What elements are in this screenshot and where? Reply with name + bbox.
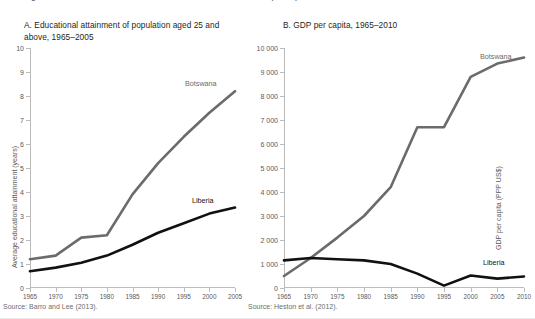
x-tick-label: 2010 (517, 293, 531, 300)
y-tick-label: 8 (20, 93, 24, 100)
y-tick (26, 96, 30, 97)
x-tick-label: 1975 (74, 293, 88, 300)
panel-b-source: Source: Heston et al. (2012). (248, 303, 338, 310)
panel-a-source: Source: Barro and Lee (2013). (3, 303, 98, 310)
x-tick-label: 1965 (23, 293, 37, 300)
x-tick (364, 288, 365, 292)
y-tick (26, 168, 30, 169)
y-tick-label: 9 000 (260, 69, 278, 76)
x-tick-label: 1980 (357, 293, 371, 300)
x-tick (444, 288, 445, 292)
panel-a-title: A. Educational attainment of population … (24, 20, 239, 43)
x-tick (184, 288, 185, 292)
x-tick (417, 288, 418, 292)
y-tick (280, 48, 284, 49)
panel-a-label-liberia: Liberia (192, 196, 214, 205)
panel-b-title: B. GDP per capita, 1965–2010 (283, 20, 523, 32)
y-tick (280, 96, 284, 97)
x-tick (235, 288, 236, 292)
x-tick-label: 2005 (228, 293, 242, 300)
x-tick-label: 2000 (464, 293, 478, 300)
y-tick (26, 192, 30, 193)
x-tick (107, 288, 108, 292)
x-tick-label: 1995 (437, 293, 451, 300)
x-tick-label: 1970 (49, 293, 63, 300)
x-tick (284, 288, 285, 292)
y-tick (280, 192, 284, 193)
x-tick-label: 1995 (177, 293, 191, 300)
panel-b: B. GDP per capita, 1965–2010 GDP per cap… (245, 0, 535, 319)
x-tick-label: 1965 (277, 293, 291, 300)
y-tick-label: 10 (16, 45, 24, 52)
y-tick (280, 168, 284, 169)
panel-a: A. Educational attainment of population … (0, 0, 252, 319)
y-tick-label: 5 000 (260, 165, 278, 172)
x-tick (209, 288, 210, 292)
y-tick (280, 72, 284, 73)
y-tick (26, 48, 30, 49)
y-tick-label: 7 000 (260, 117, 278, 124)
panel-b-label-botswana: Botswana (480, 52, 512, 61)
x-tick (337, 288, 338, 292)
y-tick-label: 4 000 (260, 189, 278, 196)
x-tick-label: 1980 (100, 293, 114, 300)
x-tick-label: 1985 (125, 293, 139, 300)
x-tick (497, 288, 498, 292)
x-tick (311, 288, 312, 292)
y-tick-label: 7 (20, 117, 24, 124)
x-tick (56, 288, 57, 292)
x-tick (158, 288, 159, 292)
y-tick (26, 216, 30, 217)
y-tick-label: 8 000 (260, 93, 278, 100)
y-tick-label: 9 (20, 69, 24, 76)
panel-a-y-axis-title: Average educational attainment (years) (11, 146, 18, 268)
series-line-botswana (30, 91, 235, 259)
series-line-botswana (284, 58, 524, 276)
y-tick-label: 6 (20, 141, 24, 148)
y-tick-label: 1 (20, 261, 24, 268)
panel-b-label-liberia: Liberia (483, 258, 505, 267)
x-tick-label: 1985 (384, 293, 398, 300)
figure-container: Figure 1. Botswana and Liberia: educatio… (0, 0, 535, 319)
panel-a-label-botswana: Botswana (185, 79, 217, 88)
x-tick (133, 288, 134, 292)
y-tick (280, 216, 284, 217)
y-tick-label: 1 000 (260, 261, 278, 268)
x-tick (524, 288, 525, 292)
x-tick-label: 1975 (330, 293, 344, 300)
y-tick-label: 0 (274, 285, 278, 292)
y-tick (26, 240, 30, 241)
y-tick-label: 2 000 (260, 237, 278, 244)
x-tick (391, 288, 392, 292)
panel-b-plot-area: 01 0002 0003 0004 0005 0006 0007 0008 00… (284, 48, 524, 288)
x-tick-label: 2005 (490, 293, 504, 300)
y-tick-label: 3 000 (260, 213, 278, 220)
y-tick (280, 120, 284, 121)
x-tick-label: 1990 (410, 293, 424, 300)
x-tick-label: 1970 (304, 293, 318, 300)
y-tick-label: 10 000 (257, 45, 278, 52)
x-tick (30, 288, 31, 292)
y-tick (280, 144, 284, 145)
y-tick-label: 4 (20, 189, 24, 196)
y-tick-label: 6 000 (260, 141, 278, 148)
y-tick-label: 3 (20, 213, 24, 220)
x-tick (81, 288, 82, 292)
y-tick-label: 0 (20, 285, 24, 292)
x-tick-label: 1990 (151, 293, 165, 300)
y-tick (26, 120, 30, 121)
y-tick-label: 5 (20, 165, 24, 172)
y-tick (280, 240, 284, 241)
series-line-liberia (30, 208, 235, 272)
x-tick-label: 2000 (202, 293, 216, 300)
y-tick (26, 144, 30, 145)
y-tick-label: 2 (20, 237, 24, 244)
y-tick (280, 264, 284, 265)
y-tick (26, 264, 30, 265)
panel-b-series-lines (284, 48, 524, 288)
x-tick (471, 288, 472, 292)
y-tick (26, 72, 30, 73)
